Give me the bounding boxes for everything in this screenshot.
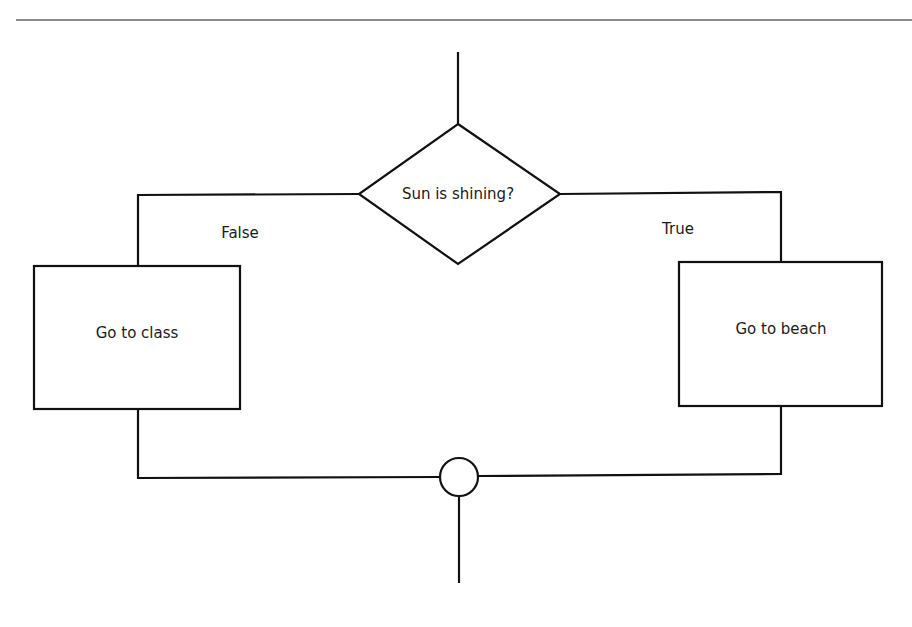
true-branch-label: True	[662, 220, 694, 238]
beach-to-merge-connector	[478, 406, 781, 476]
flowchart	[0, 0, 912, 627]
go-to-class-label: Go to class	[96, 324, 179, 342]
merge-circle	[440, 458, 478, 496]
decision-label: Sun is shining?	[402, 185, 514, 203]
class-to-merge-connector	[138, 409, 440, 478]
go-to-beach-label: Go to beach	[735, 320, 826, 338]
false-branch-label: False	[221, 224, 259, 242]
